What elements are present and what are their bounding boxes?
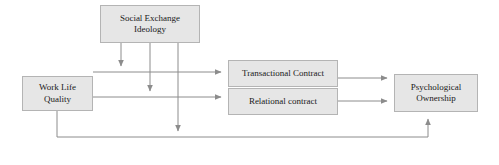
- node-psychological-ownership: Psychological Ownership: [394, 74, 478, 112]
- node-label: Psychological Ownership: [411, 82, 462, 105]
- node-label: Transactional Contract: [242, 68, 324, 79]
- node-relational-contract: Relational contract: [228, 88, 338, 115]
- node-label: Relational contract: [249, 96, 317, 107]
- node-label: Social Exchange Ideology: [120, 13, 180, 36]
- node-social-exchange-ideology: Social Exchange Ideology: [100, 5, 200, 43]
- node-transactional-contract: Transactional Contract: [228, 60, 338, 87]
- conceptual-model-diagram: Social Exchange Ideology Work Life Quali…: [0, 0, 499, 165]
- node-work-life-quality: Work Life Quality: [22, 76, 93, 111]
- node-label: Work Life Quality: [39, 82, 76, 105]
